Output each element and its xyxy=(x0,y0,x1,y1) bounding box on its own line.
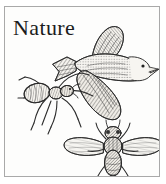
nature-card: Nature xyxy=(4,6,160,177)
fly-illustration xyxy=(61,119,160,177)
